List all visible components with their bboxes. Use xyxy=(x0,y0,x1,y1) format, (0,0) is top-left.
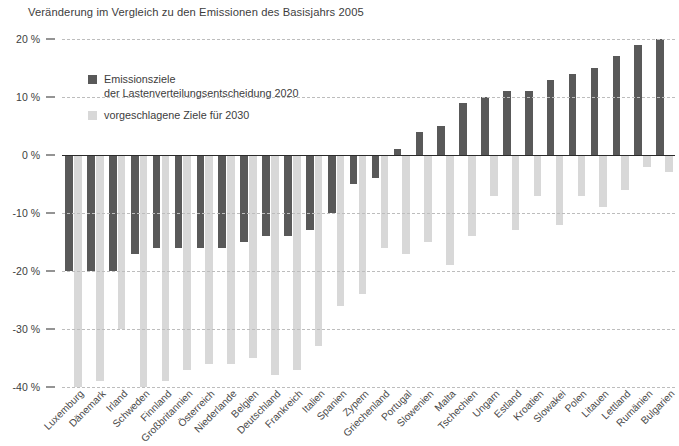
legend-item: Emissionsziele der Lastenverteilungsents… xyxy=(88,73,299,100)
legend-item: vorgeschlagene Ziele für 2030 xyxy=(88,109,299,123)
bar xyxy=(547,80,555,155)
bar xyxy=(525,91,533,155)
bar xyxy=(218,155,226,248)
bar xyxy=(162,155,170,381)
bar xyxy=(262,155,270,236)
bar xyxy=(381,155,389,248)
bar xyxy=(621,155,629,190)
bar xyxy=(556,155,564,225)
bar xyxy=(569,74,577,155)
bar xyxy=(249,155,257,358)
y-axis-tick-label: -10 % xyxy=(0,207,40,219)
bar xyxy=(512,155,520,230)
y-axis-tick-label: -20 % xyxy=(0,265,40,277)
bar xyxy=(337,155,345,306)
bar xyxy=(153,155,161,248)
bar xyxy=(643,155,651,167)
bar xyxy=(284,155,292,236)
x-axis-labels: LuxemburgDänemarkIrlandSchwedenFinnlandG… xyxy=(62,388,675,446)
legend-label: vorgeschlagene Ziele für 2030 xyxy=(104,109,249,123)
y-axis-tick xyxy=(46,271,55,272)
bar xyxy=(578,155,586,196)
bar xyxy=(424,155,432,242)
bar xyxy=(591,68,599,155)
chart-legend: Emissionsziele der Lastenverteilungsents… xyxy=(88,73,299,132)
bar xyxy=(183,155,191,370)
y-axis-tick-label: 10 % xyxy=(0,91,40,103)
bar xyxy=(481,97,489,155)
bar xyxy=(118,155,126,329)
gridline xyxy=(62,271,675,272)
bar xyxy=(359,155,367,294)
bar xyxy=(634,45,642,155)
gridline xyxy=(62,329,675,330)
bar xyxy=(315,155,323,346)
y-axis-tick xyxy=(46,155,55,156)
bar xyxy=(227,155,235,364)
bar xyxy=(96,155,104,381)
legend-swatch-dark-icon xyxy=(88,75,97,84)
y-axis-tick-label: 20 % xyxy=(0,33,40,45)
y-axis-tick-label: -30 % xyxy=(0,323,40,335)
gridline xyxy=(62,39,675,40)
y-axis-tick-label: -40 % xyxy=(0,381,40,393)
bar xyxy=(446,155,454,265)
bar xyxy=(437,126,445,155)
bar xyxy=(613,56,621,155)
y-axis-tick xyxy=(46,387,55,388)
bar xyxy=(599,155,607,207)
bar xyxy=(306,155,314,230)
bar xyxy=(503,91,511,155)
bar xyxy=(665,155,673,172)
bar xyxy=(328,155,336,213)
emissions-targets-chart: Veränderung im Vergleich zu den Emission… xyxy=(0,0,679,446)
bar xyxy=(293,155,301,370)
legend-label: Emissionsziele der Lastenverteilungsents… xyxy=(104,73,299,100)
bar xyxy=(131,155,139,254)
y-axis-tick xyxy=(46,213,55,214)
bar xyxy=(350,155,358,184)
bar xyxy=(197,155,205,248)
zero-axis-line xyxy=(62,155,675,156)
bar xyxy=(271,155,279,375)
legend-swatch-light-icon xyxy=(88,111,97,120)
gridline xyxy=(62,213,675,214)
y-axis-tick xyxy=(46,39,55,40)
chart-title: Veränderung im Vergleich zu den Emission… xyxy=(28,6,364,18)
bar xyxy=(402,155,410,254)
bar xyxy=(534,155,542,196)
bar xyxy=(175,155,183,248)
bar xyxy=(416,132,424,155)
y-axis-tick xyxy=(46,97,55,98)
y-axis-tick xyxy=(46,329,55,330)
bar xyxy=(240,155,248,242)
bar xyxy=(372,155,380,178)
bar xyxy=(205,155,213,364)
bar xyxy=(459,103,467,155)
bar xyxy=(468,155,476,236)
bar xyxy=(490,155,498,196)
y-axis-tick-label: 0 % xyxy=(0,149,40,161)
